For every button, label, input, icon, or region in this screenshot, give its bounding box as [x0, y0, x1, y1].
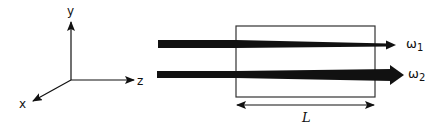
beam-1-arrowhead — [386, 41, 396, 50]
beam-2 — [157, 65, 404, 85]
x-axis — [33, 80, 71, 101]
beam-1-symbol: ω — [406, 36, 417, 51]
beam-2-subscript: 2 — [419, 72, 425, 83]
beam-1-label: ω1 — [406, 36, 423, 53]
y-axis-label: y — [67, 4, 74, 18]
beam-2-body-input — [157, 71, 236, 78]
beam-1-subscript: 1 — [417, 42, 423, 53]
beam-2-arrowhead — [390, 65, 404, 85]
coordinate-axes: y z x — [19, 4, 143, 111]
beam-2-body-growth — [236, 69, 392, 81]
medium-box — [236, 26, 375, 97]
beam-1-body-input — [158, 40, 236, 48]
beam-1-body-taper — [236, 40, 388, 48]
x-axis-label: x — [19, 97, 26, 111]
diagram-canvas: y z x ω1 ω2 L — [0, 0, 440, 131]
z-axis-label: z — [137, 74, 143, 88]
beam-2-label: ω2 — [408, 66, 425, 83]
length-label: L — [301, 110, 311, 125]
beam-2-symbol: ω — [408, 66, 419, 81]
beam-1 — [158, 40, 396, 50]
